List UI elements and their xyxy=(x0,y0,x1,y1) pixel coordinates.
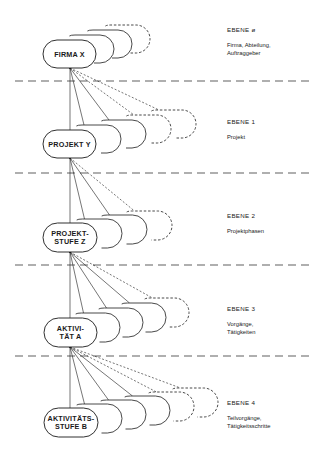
connector-dashed xyxy=(70,347,181,388)
connector xyxy=(70,347,109,400)
level-node-stack: PROJEKT Y xyxy=(43,110,196,158)
level-desc-line: Tätigkeiten xyxy=(227,329,255,335)
connector xyxy=(70,158,110,215)
connector xyxy=(70,68,84,125)
connector xyxy=(70,347,133,396)
level-title: EBENE 2 xyxy=(227,212,255,219)
connector-dashed xyxy=(70,158,135,211)
level-node-stack: AKTIVI-TÄT A xyxy=(44,298,189,347)
node-label: STUFE B xyxy=(55,422,87,431)
hierarchy-diagram: FIRMA XPROJEKT YPROJEKT-STUFE ZAKTIVI-TÄ… xyxy=(0,0,327,463)
connector-dashed xyxy=(70,252,153,298)
level-desc-line: Vorgänge, xyxy=(227,321,254,327)
level-description: EBENE 4Teilvorgänge,Tätigkeitsschritte xyxy=(227,399,271,429)
level-node-stack: PROJEKT-STUFE Z xyxy=(43,211,172,252)
level-description: EBENE øFirma, Abteilung,Auftraggeber xyxy=(227,26,271,56)
level-title: EBENE 4 xyxy=(227,399,255,406)
level-desc-line: Projektphasen xyxy=(227,228,264,234)
level-desc-line: Teilvorgänge, xyxy=(227,415,262,421)
level-title: EBENE 3 xyxy=(227,305,255,312)
connector xyxy=(70,68,109,120)
level-desc-line: Tätigkeitsschritte xyxy=(227,423,271,429)
level-labels: EBENE øFirma, Abteilung,AuftraggeberEBEN… xyxy=(227,26,271,429)
level-desc-line: Firma, Abteilung, xyxy=(227,42,271,48)
level-title: EBENE 1 xyxy=(227,118,255,125)
level-desc-line: Projekt xyxy=(227,134,245,140)
node-label: TÄT A xyxy=(60,332,82,341)
connector-dashed xyxy=(70,68,159,110)
connector xyxy=(70,158,85,219)
node-label: PROJEKT Y xyxy=(48,140,90,149)
node-label: FIRMA X xyxy=(54,50,85,59)
connector xyxy=(70,347,85,404)
connector xyxy=(70,252,84,313)
level-description: EBENE 1Projekt xyxy=(227,118,255,140)
level-node-stack: FIRMA X xyxy=(43,25,150,68)
connector xyxy=(70,252,107,308)
level-description: EBENE 3Vorgänge,Tätigkeiten xyxy=(227,305,255,335)
node-copy-dashed xyxy=(151,110,196,138)
connector xyxy=(70,252,130,303)
level-nodes: FIRMA XPROJEKT YPROJEKT-STUFE ZAKTIVI-TÄ… xyxy=(43,25,218,437)
level-title: EBENE ø xyxy=(227,26,256,33)
node-label: STUFE Z xyxy=(54,237,86,246)
level-desc-line: Auftraggeber xyxy=(227,50,261,56)
connector-dashed xyxy=(70,347,157,392)
level-description: EBENE 2Projektphasen xyxy=(227,212,264,234)
